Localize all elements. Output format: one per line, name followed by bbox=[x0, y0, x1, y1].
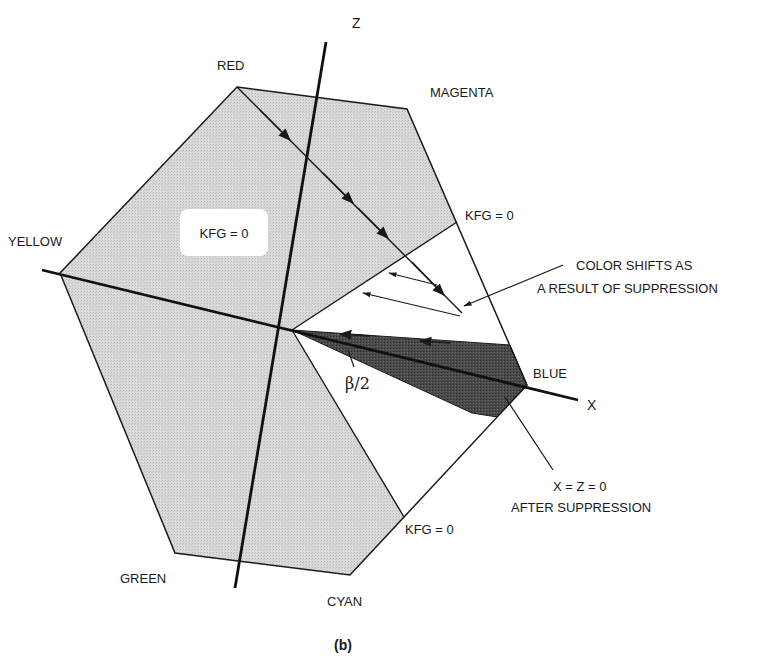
vertex-label-blue: BLUE bbox=[533, 366, 567, 381]
figure-caption: (b) bbox=[334, 637, 352, 653]
vertex-label-red: RED bbox=[217, 58, 244, 73]
shaded-region-lower bbox=[60, 273, 404, 575]
annotation-after-suppression-line2: AFTER SUPPRESSION bbox=[511, 500, 651, 515]
annotation-color-shifts-line1: COLOR SHIFTS AS bbox=[576, 258, 693, 273]
annotation-color-shifts-line2: A RESULT OF SUPPRESSION bbox=[537, 281, 718, 296]
arrow-seg-4 bbox=[412, 262, 444, 295]
kfg-boundary-label-upper: KFG = 0 bbox=[465, 208, 514, 223]
kfg-boundary-label-lower: KFG = 0 bbox=[405, 522, 454, 537]
shift-arrow-1 bbox=[389, 273, 437, 285]
vertex-label-magenta: MAGENTA bbox=[430, 85, 494, 100]
x-axis-label: X bbox=[587, 397, 597, 413]
vertex-label-yellow: YELLOW bbox=[8, 234, 63, 249]
leader-after-suppression bbox=[505, 397, 553, 470]
beta-half-label: β/2 bbox=[345, 374, 370, 393]
vertex-label-cyan: CYAN bbox=[327, 594, 362, 609]
annotation-after-suppression-line1: X = Z = 0 bbox=[553, 479, 606, 494]
kfg-region-label: KFG = 0 bbox=[200, 226, 249, 241]
color-hexagon-diagram: KFG = 0 Z X RED MAGENTA YELLOW BLUE GREE… bbox=[0, 0, 761, 660]
vertex-label-green: GREEN bbox=[120, 571, 166, 586]
z-axis-label: Z bbox=[352, 15, 361, 31]
